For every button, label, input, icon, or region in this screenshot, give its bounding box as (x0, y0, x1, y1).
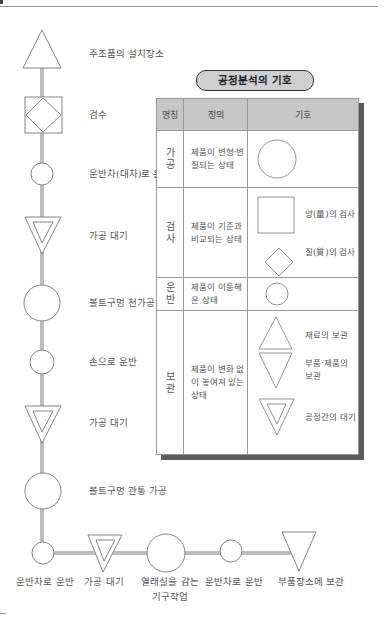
symbol-label: 질(質)의 검사 (305, 246, 355, 259)
row-name-char: 반 (157, 294, 183, 306)
legend-row-transport: 운 반 제품이 이동해 온 상태 (157, 278, 359, 311)
product-storage-triangle-down-icon (259, 353, 292, 388)
quality-inspection-diamond-icon (265, 248, 293, 276)
process-circle-icon (25, 473, 61, 509)
row-name: 보 관 (157, 311, 184, 455)
process-circle-icon (147, 534, 185, 572)
flow-step-label: 검수 (89, 109, 107, 121)
row-name-char: 운 (157, 282, 183, 294)
process-circle-icon (24, 285, 60, 321)
legend-title: 공정분석의 기호 (196, 70, 314, 91)
wait-triangle-outer-icon (25, 217, 61, 254)
flow-step-label: 볼트구멍 관통 가공 (89, 485, 167, 497)
row-symbols: 양(量)의 검사 질(質)의 검사 (248, 188, 359, 278)
flow-step-label: 손으로 운반 (89, 356, 137, 368)
inspection-square-icon (25, 97, 62, 133)
flow-bottom-label: 가공 대기 (84, 576, 123, 588)
row-name: 검 사 (157, 188, 184, 278)
legend-header-row: 명칭 정의 기호 (157, 99, 359, 131)
row-name-char: 보 (157, 371, 183, 383)
row-symbols (248, 278, 359, 311)
material-storage-triangle-icon (259, 317, 292, 349)
flow-bottom-label: 열래실을 감는 (141, 576, 198, 588)
legend-row-storage: 보 관 제품이 변화 없이 놓여져 있는 상태 재료의 보관 부품·제품의 보관… (157, 311, 359, 455)
row-definition: 제품이 변형·변질되는 상태 (184, 131, 248, 188)
storage-triangle-icon (23, 30, 61, 68)
row-name-char: 사 (157, 233, 183, 245)
row-symbols: 재료의 보관 부품·제품의 보관 공정간의 대기 (248, 311, 359, 455)
row-symbols (248, 131, 359, 188)
legend-row-processing: 가 공 제품이 변형·변질되는 상태 (157, 131, 359, 188)
header-definition: 정의 (184, 99, 248, 131)
symbol-label: 양(量)의 검사 (305, 208, 355, 221)
transport-circle-icon (266, 283, 288, 305)
row-name-char: 관 (157, 383, 183, 395)
symbol-label: 공정간의 대기 (305, 411, 356, 424)
header-symbol: 기호 (248, 99, 359, 131)
flow-bottom-label: 운반차로 운반 (16, 576, 73, 588)
flow-bottom-label-line2: 기구작업 (152, 591, 188, 603)
flow-step-label: 볼트구멍 천가공 (89, 297, 155, 309)
row-name-char: 검 (157, 221, 183, 233)
flow-bottom-label: 운반차로 운반 (205, 576, 262, 588)
quantity-inspection-square-icon (258, 197, 294, 233)
row-name-char: 가 (157, 147, 183, 159)
transport-circle-icon (31, 163, 53, 185)
transport-circle-icon (32, 542, 54, 564)
symbol-label: 부품·제품의 보관 (305, 357, 355, 383)
transport-circle-icon (220, 540, 242, 562)
symbol-legend-table: 명칭 정의 기호 가 공 제품이 변형·변질되는 상태 검 사 제품이 기준과 … (156, 98, 359, 455)
row-name: 가 공 (157, 131, 184, 188)
legend-row-inspection: 검 사 제품이 기준과 비교되는 상태 양(量)의 검사 질(質)의 검사 (157, 188, 359, 278)
flow-step-label: 가공 대기 (89, 230, 128, 242)
flow-bottom-label: 부품장소에 보관 (278, 576, 344, 588)
row-definition: 제품이 변화 없이 놓여져 있는 상태 (184, 311, 248, 455)
header-name: 명칭 (157, 99, 184, 131)
wait-triangle-outer-icon (25, 406, 61, 443)
row-name-char: 공 (157, 159, 183, 171)
process-circle-icon (258, 140, 296, 178)
flow-step-label: 주조품의 설치장소 (89, 48, 164, 60)
symbol-label: 재료의 보관 (305, 329, 348, 342)
row-definition: 제품이 이동해 온 상태 (184, 278, 248, 311)
row-name: 운 반 (157, 278, 184, 311)
row-definition: 제품이 기준과 비교되는 상태 (184, 188, 248, 278)
flow-step-label: 가공 대기 (89, 417, 128, 429)
transport-circle-icon (30, 350, 54, 374)
